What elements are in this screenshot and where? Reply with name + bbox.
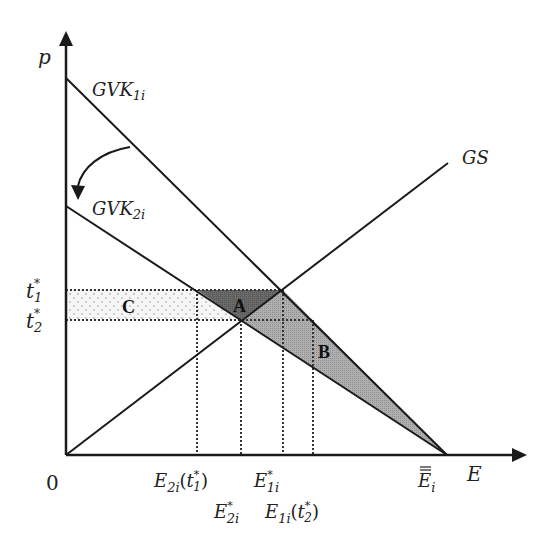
e1i-t2-label: E1i(t*2) [264,499,319,526]
area-b-label: B [318,342,330,362]
y-axis-label: p [38,45,51,69]
area-b [241,290,447,455]
x-axis-label: E [466,462,482,486]
shift-arrow-head-icon [71,185,85,200]
e2i-star-label: E*2i [213,499,239,526]
e1i-star-label: E*1i [253,468,279,495]
gvk1-label: GVK1i [92,79,145,103]
y-axis-arrow-icon [59,31,73,46]
t1-label: t*1 [26,277,42,305]
gvk1-line [66,78,447,455]
gvk2-line [66,206,447,455]
e2i-t1-label: E2i(t*1) [153,468,208,495]
area-a-label: A [233,296,246,316]
t2-label: t*2 [26,307,42,335]
ebar-label: Ei [417,470,435,495]
shift-arrow-curve [78,147,130,186]
x-axis-arrow-icon [512,448,527,462]
gs-label: GS [462,147,489,168]
origin-label: 0 [46,471,59,495]
economic-diagram: p E 0 GVK1i GVK2i GS t*1 t*2 A B C E2i(t… [0,0,551,546]
area-c-label: C [122,297,135,317]
gvk2-label: GVK2i [92,198,145,222]
